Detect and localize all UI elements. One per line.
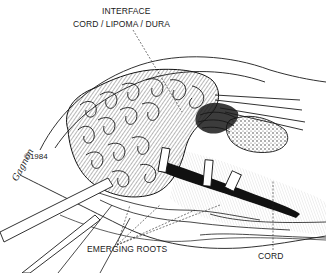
surgical-illustration: INTERFACE CORD / LIPOMA / DURA EMERGING … [0, 0, 326, 273]
label-cord: CORD [258, 252, 283, 261]
illustration-drawing [0, 0, 326, 273]
label-cord-lipoma-dura: CORD / LIPOMA / DURA [73, 20, 170, 29]
label-interface: INTERFACE [102, 7, 151, 16]
lipoma-tail [226, 116, 287, 152]
copyright-notice: ©1984 [24, 152, 48, 161]
label-emerging-roots: EMERGING ROOTS [87, 245, 167, 254]
